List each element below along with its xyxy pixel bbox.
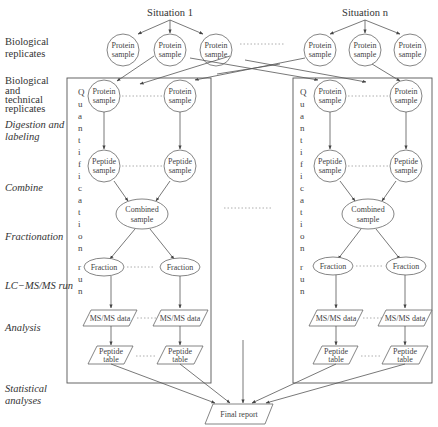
- svg-text:i: i: [300, 171, 303, 181]
- svg-text:a: a: [300, 111, 304, 121]
- svg-text:c: c: [78, 183, 82, 193]
- row-label-combine: Combine: [5, 182, 43, 193]
- svg-text:n: n: [300, 123, 305, 133]
- vertical-label-right: Q u a n t i f i c a t i o n r u n: [300, 87, 307, 296]
- bio-replicate-node: Protein sample: [200, 34, 232, 66]
- row-label-statistical-2: analyses: [5, 395, 41, 406]
- row-label-digestion-2: labeling: [5, 131, 39, 142]
- row-label-statistical-1: Statistical: [5, 383, 47, 394]
- svg-text:Protein: Protein: [398, 41, 421, 50]
- svg-text:sample: sample: [112, 50, 135, 59]
- svg-text:table: table: [103, 355, 119, 364]
- row-label-lcmsms: LC−MS/MS run: [4, 280, 73, 291]
- svg-text:a: a: [78, 195, 82, 205]
- bio-replicate-node: Protein sample: [394, 34, 426, 66]
- svg-text:Protein: Protein: [158, 41, 181, 50]
- svg-text:i: i: [300, 219, 303, 229]
- bio-replicate-node: Protein sample: [107, 34, 139, 66]
- svg-text:MS/MS data: MS/MS data: [160, 314, 201, 323]
- bio-replicate-node: Protein sample: [304, 34, 336, 66]
- svg-text:table: table: [397, 355, 413, 364]
- svg-text:sample: sample: [169, 96, 192, 105]
- svg-text:Fraction: Fraction: [167, 263, 194, 272]
- svg-text:u: u: [78, 99, 83, 109]
- svg-text:Q: Q: [300, 87, 307, 97]
- svg-text:Protein: Protein: [353, 41, 376, 50]
- svg-text:f: f: [78, 159, 81, 169]
- svg-text:Protein: Protein: [111, 41, 134, 50]
- svg-text:Combined: Combined: [351, 205, 384, 214]
- bio-replicate-node: Protein sample: [349, 34, 381, 66]
- svg-text:i: i: [78, 219, 81, 229]
- bio-replicate-node: Protein sample: [154, 34, 186, 66]
- svg-text:MS/MS data: MS/MS data: [90, 314, 131, 323]
- svg-text:sample: sample: [354, 50, 377, 59]
- svg-text:Protein: Protein: [92, 87, 115, 96]
- svg-text:Protein: Protein: [168, 87, 191, 96]
- svg-text:u: u: [300, 274, 305, 284]
- svg-text:Fraction: Fraction: [393, 262, 420, 271]
- svg-text:Q: Q: [78, 87, 85, 97]
- situation-n-label: Situation n: [342, 7, 389, 18]
- svg-text:sample: sample: [399, 50, 422, 59]
- svg-text:r: r: [300, 262, 303, 272]
- svg-text:Final report: Final report: [220, 410, 258, 419]
- svg-text:c: c: [300, 183, 304, 193]
- svg-text:sample: sample: [159, 50, 182, 59]
- svg-text:t: t: [300, 135, 303, 145]
- svg-text:t: t: [78, 135, 81, 145]
- svg-text:f: f: [300, 159, 303, 169]
- svg-text:i: i: [78, 171, 81, 181]
- svg-text:a: a: [78, 111, 82, 121]
- svg-text:sample: sample: [395, 96, 418, 105]
- svg-text:t: t: [78, 207, 81, 217]
- row-label-biological-replicates-1: Biological: [5, 36, 49, 47]
- svg-text:Fraction: Fraction: [91, 263, 118, 272]
- bio-replicates: Protein sample Protein sample Protein sa…: [107, 34, 426, 66]
- svg-text:table: table: [172, 355, 188, 364]
- quantification-box-left: Q u a n t i f i c a t i o n r u n Protei…: [67, 78, 211, 383]
- workflow-diagram: Biological replicates Biological and tec…: [0, 0, 438, 427]
- vertical-label-left: Q u a n t i f i c a t i o n r u n: [78, 87, 85, 296]
- svg-text:Peptide: Peptide: [168, 157, 192, 166]
- svg-text:n: n: [78, 286, 83, 296]
- situation-1-label: Situation 1: [147, 7, 193, 18]
- svg-text:MS/MS data: MS/MS data: [316, 314, 357, 323]
- svg-text:sample: sample: [357, 215, 380, 224]
- final-edges: [111, 340, 405, 403]
- svg-text:Protein: Protein: [308, 41, 331, 50]
- svg-text:sample: sample: [131, 215, 154, 224]
- svg-text:table: table: [328, 355, 344, 364]
- svg-text:Peptide: Peptide: [318, 157, 342, 166]
- row-label-analysis: Analysis: [4, 322, 41, 333]
- svg-text:o: o: [300, 231, 305, 241]
- svg-text:Peptide: Peptide: [92, 157, 116, 166]
- svg-text:o: o: [78, 231, 83, 241]
- svg-text:n: n: [300, 286, 305, 296]
- svg-text:n: n: [78, 243, 83, 253]
- svg-text:Fraction: Fraction: [320, 262, 347, 271]
- svg-text:n: n: [78, 123, 83, 133]
- svg-text:u: u: [300, 99, 305, 109]
- svg-text:n: n: [300, 243, 305, 253]
- svg-text:sample: sample: [93, 96, 116, 105]
- svg-text:Protein: Protein: [204, 41, 227, 50]
- row-label-biological-replicates-2: replicates: [5, 48, 45, 59]
- svg-text:sample: sample: [93, 166, 116, 175]
- svg-text:a: a: [300, 195, 304, 205]
- svg-text:i: i: [78, 147, 81, 157]
- row-labels: Biological replicates Biological and tec…: [4, 36, 73, 406]
- svg-text:t: t: [300, 207, 303, 217]
- row-label-digestion-1: Digestion and: [4, 119, 65, 130]
- svg-text:i: i: [300, 147, 303, 157]
- svg-text:Combined: Combined: [125, 205, 158, 214]
- svg-text:sample: sample: [319, 166, 342, 175]
- svg-text:u: u: [78, 274, 83, 284]
- svg-text:r: r: [78, 262, 81, 272]
- final-report-node: Final report: [205, 404, 273, 424]
- svg-text:MS/MS data: MS/MS data: [385, 314, 426, 323]
- svg-text:sample: sample: [395, 166, 418, 175]
- situation-edges: [138, 20, 400, 34]
- svg-text:sample: sample: [319, 96, 342, 105]
- svg-text:Peptide: Peptide: [394, 157, 418, 166]
